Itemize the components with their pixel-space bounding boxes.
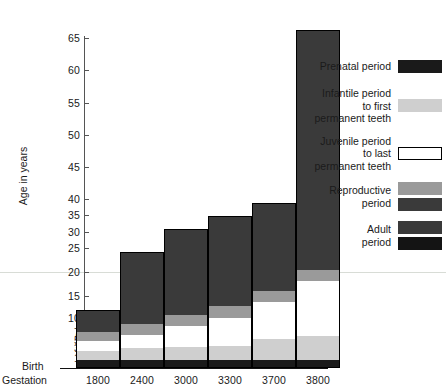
birth-axis-label: Birth <box>22 360 44 372</box>
bar-segment-adult-period <box>253 204 295 291</box>
bar-segment-infantile-period-to-first-permanent-teeth <box>297 336 339 360</box>
bar-3700[interactable] <box>252 203 296 368</box>
legend-swatch <box>398 99 442 112</box>
legend-label: Infantile periodto firstpermanent teeth <box>310 87 398 125</box>
legend-swatch-group <box>398 60 442 73</box>
legend-label: Reproductiveperiod <box>310 184 398 209</box>
plot-area <box>60 20 328 368</box>
legend-item-adult[interactable]: Adultperiod <box>310 221 442 250</box>
legend-swatch <box>398 60 442 73</box>
legend-item-prenatal-period[interactable]: Prenatal period <box>310 60 442 73</box>
legend-label: Adultperiod <box>310 223 398 248</box>
legend-label: Juvenile periodto lastpermanent teeth <box>310 135 398 173</box>
legend-swatch <box>398 221 442 234</box>
bar-segment-juvenile-period-to-last-permanent-teeth <box>165 326 207 348</box>
bar-segment-juvenile-period-to-last-permanent-teeth <box>253 302 295 340</box>
bar-segment-juvenile-period-to-last-permanent-teeth <box>209 318 251 347</box>
bar-2400[interactable] <box>120 252 164 368</box>
bar-segment-prenatal-period <box>165 360 207 367</box>
bar-segment-adult-period <box>165 230 207 315</box>
legend-swatch <box>398 198 442 211</box>
legend-swatch <box>398 147 442 160</box>
bar-3300[interactable] <box>208 216 252 368</box>
bar-segment-reproductive-period <box>253 291 295 302</box>
bar-segment-reproductive-period <box>209 306 251 318</box>
bar-segment-adult-period <box>77 311 119 332</box>
bar-segment-infantile-period-to-first-permanent-teeth <box>121 348 163 360</box>
gestation-axis-label: Gestation <box>2 374 47 386</box>
legend-item-infantile-period[interactable]: Infantile periodto firstpermanent teeth <box>310 87 442 125</box>
legend-swatch-group <box>398 99 442 112</box>
legend-swatch <box>398 237 442 250</box>
bar-segment-adult-period <box>209 217 251 306</box>
legend-swatch-group <box>398 147 442 160</box>
bar-1800[interactable] <box>76 310 120 368</box>
bar-segment-infantile-period-to-first-permanent-teeth <box>77 351 119 361</box>
bar-segment-reproductive-period <box>77 332 119 341</box>
x-axis-baseline <box>60 368 328 369</box>
legend-swatch-group <box>398 182 442 211</box>
bar-segment-prenatal-period <box>121 360 163 367</box>
legend-label: Prenatal period <box>310 60 398 73</box>
stacked-bar-chart: Age in years 135710152025303540455055606… <box>0 0 446 390</box>
bar-segment-reproductive-period <box>297 270 339 281</box>
bar-segment-adult-period <box>121 253 163 324</box>
bar-segment-prenatal-period <box>209 360 251 367</box>
bar-segment-reproductive-period <box>121 324 163 335</box>
bar-segment-infantile-period-to-first-permanent-teeth <box>253 339 295 360</box>
bar-segment-juvenile-period-to-last-permanent-teeth <box>121 335 163 349</box>
chart-legend: Prenatal periodInfantile periodto firstp… <box>310 60 442 260</box>
legend-swatch-group <box>398 221 442 250</box>
bar-segment-juvenile-period-to-last-permanent-teeth <box>297 281 339 337</box>
bar-segment-infantile-period-to-first-permanent-teeth <box>165 347 207 360</box>
bar-3000[interactable] <box>164 229 208 368</box>
bar-segment-juvenile-period-to-last-permanent-teeth <box>77 341 119 351</box>
bar-segment-prenatal-period <box>77 360 119 367</box>
legend-item-reproductive[interactable]: Reproductiveperiod <box>310 182 442 211</box>
legend-swatch <box>398 182 442 195</box>
y-axis-title: Age in years <box>17 131 29 221</box>
bar-segment-infantile-period-to-first-permanent-teeth <box>209 346 251 360</box>
bar-segment-reproductive-period <box>165 315 207 326</box>
bar-segment-prenatal-period <box>297 360 339 367</box>
bar-segment-prenatal-period <box>253 360 295 367</box>
legend-item-juvenile-period[interactable]: Juvenile periodto lastpermanent teeth <box>310 135 442 173</box>
x-axis-label-3800: 3800 <box>288 374 348 386</box>
